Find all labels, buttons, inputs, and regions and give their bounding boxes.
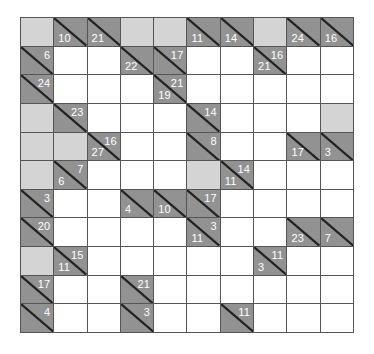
entry-cell[interactable]: [254, 133, 286, 161]
clue-cell: 24: [287, 18, 319, 46]
clue-cell: 20: [21, 218, 53, 246]
entry-cell[interactable]: [221, 133, 253, 161]
down-clue-value: 22: [125, 61, 138, 72]
entry-cell[interactable]: [221, 276, 253, 304]
entry-cell[interactable]: [287, 161, 319, 189]
down-clue-value: 10: [58, 33, 71, 44]
entry-cell[interactable]: [88, 304, 120, 332]
clue-cell: 10: [154, 190, 186, 218]
entry-cell[interactable]: [254, 104, 286, 132]
entry-cell[interactable]: [254, 75, 286, 103]
entry-cell[interactable]: [187, 75, 219, 103]
entry-cell[interactable]: [54, 218, 86, 246]
entry-cell[interactable]: [221, 247, 253, 275]
entry-cell[interactable]: [321, 304, 353, 332]
across-clue-value: 15: [71, 250, 84, 261]
entry-cell[interactable]: [254, 276, 286, 304]
entry-cell[interactable]: [154, 304, 186, 332]
entry-cell[interactable]: [154, 218, 186, 246]
entry-cell[interactable]: [187, 47, 219, 75]
across-clue-value: 17: [38, 279, 51, 290]
blank-cell: [21, 161, 53, 189]
entry-cell[interactable]: [254, 304, 286, 332]
across-clue-value: 3: [44, 193, 50, 204]
blank-cell: [321, 104, 353, 132]
clue-cell: 113: [254, 247, 286, 275]
blank-cell: [21, 104, 53, 132]
across-clue-value: 6: [44, 50, 50, 61]
entry-cell[interactable]: [287, 104, 319, 132]
entry-cell[interactable]: [54, 190, 86, 218]
entry-cell[interactable]: [88, 247, 120, 275]
entry-cell[interactable]: [187, 304, 219, 332]
down-clue-value: 6: [58, 176, 64, 187]
entry-cell[interactable]: [121, 104, 153, 132]
entry-cell[interactable]: [88, 161, 120, 189]
entry-cell[interactable]: [254, 190, 286, 218]
entry-cell[interactable]: [88, 104, 120, 132]
entry-cell[interactable]: [88, 75, 120, 103]
entry-cell[interactable]: [54, 47, 86, 75]
entry-cell[interactable]: [187, 276, 219, 304]
entry-cell[interactable]: [321, 276, 353, 304]
clue-cell: 1511: [54, 247, 86, 275]
clue-cell: 14: [221, 18, 253, 46]
clue-cell: 23: [287, 218, 319, 246]
entry-cell[interactable]: [221, 104, 253, 132]
entry-cell[interactable]: [88, 276, 120, 304]
entry-cell[interactable]: [121, 75, 153, 103]
clue-cell: 21: [121, 276, 153, 304]
entry-cell[interactable]: [88, 190, 120, 218]
entry-cell[interactable]: [287, 47, 319, 75]
entry-cell[interactable]: [321, 247, 353, 275]
across-clue-value: 14: [237, 164, 250, 175]
entry-cell[interactable]: [154, 247, 186, 275]
across-clue-value: 3: [210, 221, 216, 232]
clue-cell: 23: [54, 104, 86, 132]
entry-cell[interactable]: [154, 276, 186, 304]
entry-cell[interactable]: [121, 247, 153, 275]
entry-cell[interactable]: [287, 247, 319, 275]
entry-cell[interactable]: [121, 161, 153, 189]
across-clue-value: 21: [171, 78, 184, 89]
down-clue-value: 3: [325, 147, 331, 158]
entry-cell[interactable]: [88, 47, 120, 75]
entry-cell[interactable]: [54, 304, 86, 332]
entry-cell[interactable]: [321, 47, 353, 75]
entry-cell[interactable]: [187, 247, 219, 275]
down-clue-value: 21: [258, 61, 271, 72]
entry-cell[interactable]: [88, 218, 120, 246]
entry-cell[interactable]: [154, 104, 186, 132]
clue-cell: 76: [54, 161, 86, 189]
down-clue-value: 11: [191, 233, 203, 244]
entry-cell[interactable]: [321, 190, 353, 218]
entry-cell[interactable]: [287, 276, 319, 304]
down-clue-value: 21: [92, 33, 105, 44]
entry-cell[interactable]: [221, 75, 253, 103]
entry-cell[interactable]: [221, 218, 253, 246]
entry-cell[interactable]: [121, 133, 153, 161]
across-clue-value: 8: [210, 136, 216, 147]
entry-cell[interactable]: [254, 161, 286, 189]
entry-cell[interactable]: [54, 75, 86, 103]
entry-cell[interactable]: [321, 75, 353, 103]
clue-cell: 24: [21, 75, 53, 103]
down-clue-value: 11: [191, 33, 203, 44]
clue-cell: 3: [321, 133, 353, 161]
entry-cell[interactable]: [154, 161, 186, 189]
across-clue-value: 4: [44, 307, 50, 318]
entry-cell[interactable]: [321, 161, 353, 189]
entry-cell[interactable]: [221, 47, 253, 75]
entry-cell[interactable]: [287, 304, 319, 332]
entry-cell[interactable]: [254, 218, 286, 246]
entry-cell[interactable]: [121, 218, 153, 246]
clue-cell: 8: [187, 133, 219, 161]
across-clue-value: 7: [77, 164, 83, 175]
entry-cell[interactable]: [287, 75, 319, 103]
blank-cell: [21, 18, 53, 46]
entry-cell[interactable]: [287, 190, 319, 218]
entry-cell[interactable]: [154, 133, 186, 161]
down-clue-value: 10: [158, 204, 171, 215]
entry-cell[interactable]: [221, 190, 253, 218]
entry-cell[interactable]: [54, 276, 86, 304]
